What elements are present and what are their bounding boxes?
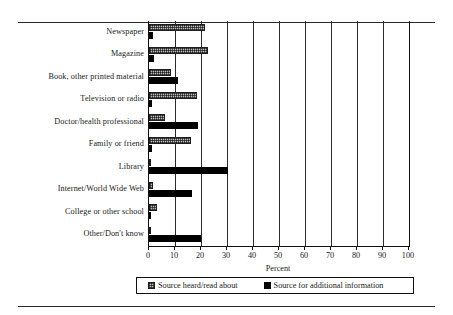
bar-row [149,201,409,224]
x-tick [278,246,279,250]
bar-heard-read-about [149,47,208,54]
x-tick-label: 80 [343,251,369,261]
x-tick [226,246,227,250]
legend-label-additional: Source for additional information [274,281,384,291]
category-axis-labels: NewspaperMagazineBook, other printed mat… [0,21,144,246]
x-tick [356,246,357,250]
x-tick [330,246,331,250]
plot-area [148,21,410,247]
bar-heard-read-about [149,92,197,99]
bar-heard-read-about [149,69,171,76]
bar-heard-read-about [149,182,153,189]
chart-legend: Source heard/read about Source for addit… [136,277,414,294]
x-tick-label: 20 [187,251,213,261]
x-tick [148,246,149,250]
page-rule-bottom [18,306,435,307]
bar-heard-read-about [149,114,165,121]
category-label: Library [0,162,144,172]
category-label: Family or friend [0,139,144,149]
x-tick [174,246,175,250]
bar-additional-information [149,122,198,129]
bar-row [149,179,409,202]
category-label: Other/Don't know [0,229,144,239]
bar-rows [149,21,409,246]
bar-additional-information [149,77,178,84]
category-label: Newspaper [0,27,144,37]
x-tick [304,246,305,250]
legend-label-heard: Source heard/read about [158,281,238,291]
x-tick [382,246,383,250]
x-tick-label: 50 [265,251,291,261]
x-tick-label: 30 [213,251,239,261]
bar-heard-read-about [149,227,151,234]
bar-additional-information [149,32,153,39]
x-axis-title: Percent [148,264,408,274]
bar-row [149,21,409,44]
x-tick [200,246,201,250]
category-label: Internet/World Wide Web [0,184,144,194]
bar-heard-read-about [149,159,151,166]
bar-row [149,224,409,247]
bar-row [149,134,409,157]
category-label: Magazine [0,49,144,59]
x-tick-label: 60 [291,251,317,261]
bar-heard-read-about [149,24,205,31]
category-label: Television or radio [0,94,144,104]
legend-swatch-hatched-icon [148,282,155,289]
bar-row [149,156,409,179]
category-label: College or other school [0,207,144,217]
x-tick-label: 100 [395,251,421,261]
x-tick [252,246,253,250]
x-tick-label: 10 [161,251,187,261]
x-tick-label: 40 [239,251,265,261]
bar-row [149,111,409,134]
x-tick [408,246,409,250]
chart-figure: NewspaperMagazineBook, other printed mat… [0,0,453,315]
bar-additional-information [149,235,201,242]
x-tick-label: 90 [369,251,395,261]
bar-row [149,44,409,67]
x-tick-label: 0 [135,251,161,261]
bar-heard-read-about [149,204,157,211]
bar-row [149,66,409,89]
legend-swatch-solid-icon [264,282,271,289]
category-label: Book, other printed material [0,72,144,82]
legend-entry-additional: Source for additional information [264,281,384,291]
bar-additional-information [149,145,152,152]
bar-additional-information [149,190,192,197]
bar-additional-information [149,167,228,174]
category-label: Doctor/health professional [0,117,144,127]
bar-additional-information [149,100,152,107]
bar-heard-read-about [149,137,191,144]
bar-additional-information [149,55,154,62]
legend-entry-heard: Source heard/read about [148,281,238,291]
bar-row [149,89,409,112]
x-tick-label: 70 [317,251,343,261]
bar-additional-information [149,212,151,219]
